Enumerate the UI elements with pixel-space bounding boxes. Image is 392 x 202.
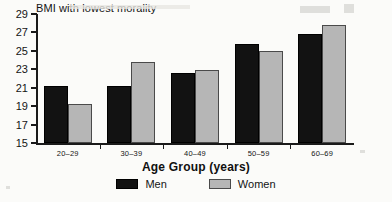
bar-women-30-39 <box>131 62 155 143</box>
bar-men-20-29 <box>44 86 68 143</box>
y-axis-tick <box>31 124 37 126</box>
scan-smudge <box>70 5 190 9</box>
y-axis-tick <box>31 50 37 52</box>
scan-speck <box>360 150 365 153</box>
plot-area: 151719212325272920–2930–3940–4950–5960–6… <box>36 14 354 145</box>
bmi-bar-chart: BMI with lowest morality 151719212325272… <box>0 0 392 202</box>
bar-men-60-69 <box>298 34 322 143</box>
legend-swatch-women <box>209 179 231 189</box>
legend-label: Women <box>238 178 276 190</box>
bar-men-40-49 <box>171 73 195 143</box>
y-axis-tick <box>31 142 37 144</box>
legend-swatch-men <box>116 179 138 189</box>
x-axis-tick-label: 30–39 <box>120 149 142 158</box>
y-axis-tick-label: 23 <box>2 63 28 75</box>
bar-women-60-69 <box>322 25 346 143</box>
x-axis-tick-label: 20–29 <box>57 149 79 158</box>
y-axis-tick <box>31 13 37 15</box>
scan-speck <box>344 4 354 13</box>
scan-speck <box>6 186 10 189</box>
y-axis-tick-label: 27 <box>2 26 28 38</box>
y-axis-tick <box>31 68 37 70</box>
y-axis-tick-label: 25 <box>2 45 28 57</box>
scan-speck <box>300 6 330 13</box>
x-axis-tick <box>163 145 164 149</box>
y-axis-tick <box>31 31 37 33</box>
x-axis-tick-label: 60–69 <box>311 149 333 158</box>
legend-label: Men <box>145 178 166 190</box>
x-axis-line <box>36 143 354 145</box>
y-axis-tick <box>31 105 37 107</box>
y-axis-tick-label: 19 <box>2 100 28 112</box>
x-axis-title: Age Group (years) <box>0 160 392 174</box>
y-axis-tick-label: 17 <box>2 119 28 131</box>
x-axis-tick <box>290 145 291 149</box>
y-axis-tick-label: 29 <box>2 8 28 20</box>
x-axis-tick-label: 50–59 <box>248 149 270 158</box>
x-axis-tick <box>100 145 101 149</box>
y-axis-tick-label: 15 <box>2 137 28 149</box>
bar-women-40-49 <box>195 70 219 143</box>
x-axis-tick-label: 40–49 <box>184 149 206 158</box>
y-axis-tick <box>31 87 37 89</box>
y-axis-tick-label: 21 <box>2 82 28 94</box>
bar-women-20-29 <box>68 104 92 143</box>
legend-item-women: Women <box>209 178 276 190</box>
legend-item-men: Men <box>116 178 166 190</box>
bar-women-50-59 <box>259 51 283 143</box>
bar-men-30-39 <box>107 86 131 143</box>
chart-legend: MenWomen <box>0 178 392 190</box>
bar-men-50-59 <box>235 44 259 144</box>
x-axis-tick <box>227 145 228 149</box>
